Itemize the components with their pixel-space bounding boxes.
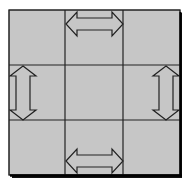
resize-grid-diagram [0, 0, 189, 186]
grid-svg [0, 0, 189, 186]
grid-background [9, 10, 180, 175]
